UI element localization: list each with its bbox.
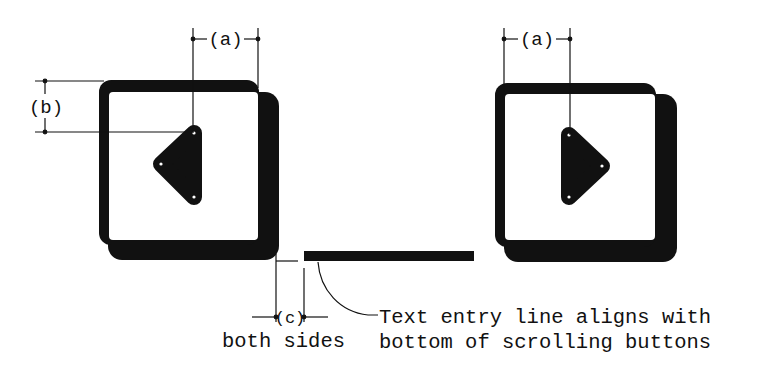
- scroll-right-button: [495, 83, 677, 262]
- callout-leader: [318, 262, 378, 315]
- dimension-c-label: (c): [275, 309, 306, 328]
- dimension-a-left-label: (a): [208, 29, 242, 51]
- dimension-b-label: (b): [29, 97, 63, 119]
- dimension-c-note: both sides: [222, 330, 345, 353]
- text-entry-line: [304, 251, 474, 261]
- callout-line-1: Text entry line aligns with: [379, 306, 711, 329]
- dimension-a-right-label: (a): [520, 29, 554, 51]
- scroll-button-spec-diagram: (a) (a) (b) (c) both sides Text entry li…: [0, 0, 758, 366]
- scroll-left-button: [99, 80, 279, 260]
- callout-line-2: bottom of scrolling buttons: [379, 331, 711, 354]
